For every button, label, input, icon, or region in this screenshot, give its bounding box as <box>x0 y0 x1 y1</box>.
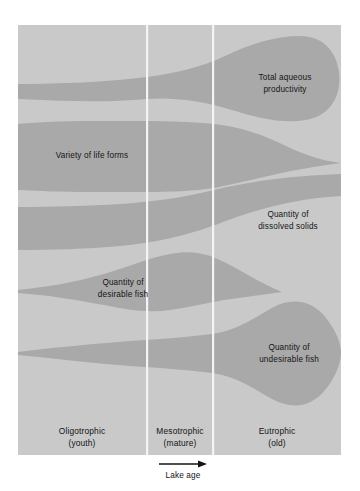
band-label-total-aqueous-productivity-line1: Total aqueous <box>259 73 312 82</box>
band-label-quantity-of-dissolved-solids-line2: dissolved solids <box>258 222 318 231</box>
stage-label-oligotrophic-sub: (youth) <box>68 438 95 448</box>
band-label-variety-of-life-forms-line1: Variety of life forms <box>56 151 129 160</box>
stage-label-mesotrophic-sub: (mature) <box>164 438 197 448</box>
stage-divider-2 <box>212 25 214 455</box>
arrow-right-icon <box>198 461 207 468</box>
lake-eutrophication-figure: Total aqueous productivity Variety of li… <box>0 0 360 491</box>
lake-age-label: Lake age <box>166 471 201 480</box>
band-label-total-aqueous-productivity-line2: productivity <box>263 85 307 94</box>
band-label-quantity-of-desirable-fish-line1: Quantity of <box>102 278 144 287</box>
stage-divider-1 <box>146 25 148 455</box>
stage-label-eutrophic-sub: (old) <box>268 438 286 448</box>
band-label-quantity-of-undesirable-fish-line1: Quantity of <box>268 343 310 352</box>
band-label-quantity-of-dissolved-solids-line1: Quantity of <box>267 210 309 219</box>
band-label-quantity-of-undesirable-fish-line2: undesirable fish <box>259 355 319 364</box>
band-label-quantity-of-desirable-fish-line2: desirable fish <box>98 290 149 299</box>
figure-canvas: Total aqueous productivity Variety of li… <box>0 0 360 491</box>
stage-label-mesotrophic-name: Mesotrophic <box>156 426 203 436</box>
stage-label-oligotrophic-name: Oligotrophic <box>59 426 106 436</box>
lake-age-axis: Lake age <box>159 461 207 481</box>
stage-label-eutrophic-name: Eutrophic <box>259 426 296 436</box>
